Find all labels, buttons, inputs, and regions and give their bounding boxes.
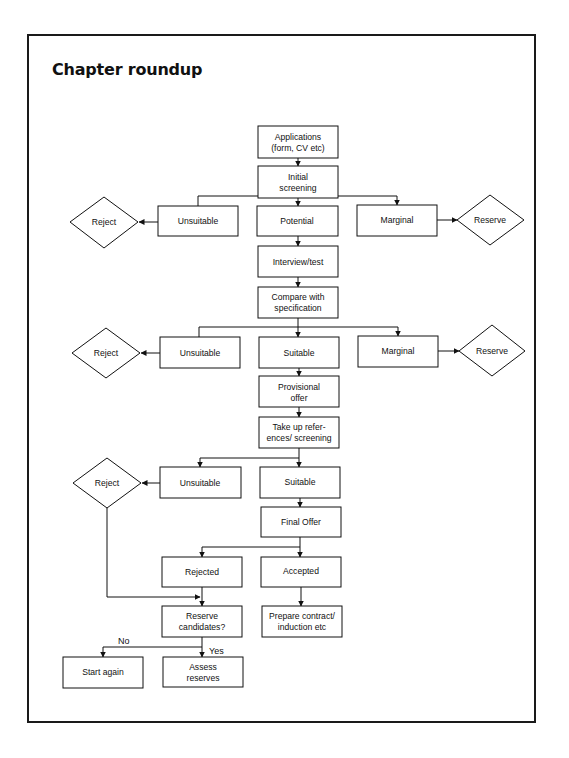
node-shapes bbox=[63, 126, 525, 688]
label-take-up-1: Take up refer- bbox=[272, 422, 325, 432]
label-initial-2: screening bbox=[279, 183, 316, 193]
label-reject-1: Reject bbox=[92, 217, 117, 227]
node-applications bbox=[258, 126, 338, 158]
label-provisional-2: offer bbox=[290, 393, 307, 403]
label-interview: Interview/test bbox=[273, 257, 324, 267]
label-reject-3: Reject bbox=[95, 478, 120, 488]
label-assess-1: Assess bbox=[189, 662, 217, 672]
label-compare-2: specification bbox=[274, 303, 322, 313]
label-potential: Potential bbox=[280, 216, 314, 226]
label-initial-1: Initial bbox=[288, 172, 308, 182]
label-applications-2: (form, CV etc) bbox=[271, 143, 325, 153]
edge-label-yes: Yes bbox=[209, 646, 224, 656]
label-provisional-1: Provisional bbox=[278, 382, 320, 392]
flowchart: Applications (form, CV etc) Initial scre… bbox=[0, 0, 569, 758]
edge-label-no: No bbox=[118, 636, 130, 646]
label-marginal-2: Marginal bbox=[382, 346, 415, 356]
label-suitable-3: Suitable bbox=[284, 477, 315, 487]
label-accepted: Accepted bbox=[283, 566, 319, 576]
label-reserve-2: Reserve bbox=[476, 346, 508, 356]
label-reject-2: Reject bbox=[94, 348, 119, 358]
label-marginal-1: Marginal bbox=[381, 215, 414, 225]
label-take-up-2: ences/ screening bbox=[267, 433, 332, 443]
label-suitable-2: Suitable bbox=[283, 348, 314, 358]
label-prepare-2: induction etc bbox=[278, 622, 327, 632]
node-initial-screening bbox=[258, 166, 338, 198]
label-unsuitable-3: Unsuitable bbox=[180, 478, 221, 488]
label-reserve-candidates-1: Reserve bbox=[186, 611, 218, 621]
label-prepare-1: Prepare contract/ bbox=[269, 611, 336, 621]
label-applications-1: Applications bbox=[275, 132, 321, 142]
label-rejected: Rejected bbox=[185, 567, 219, 577]
label-unsuitable-2: Unsuitable bbox=[180, 348, 221, 358]
label-final-offer: Final Offer bbox=[281, 517, 321, 527]
label-assess-2: reserves bbox=[187, 673, 220, 683]
label-start-again: Start again bbox=[82, 667, 124, 677]
label-compare-1: Compare with bbox=[271, 292, 324, 302]
label-reserve-1: Reserve bbox=[474, 215, 506, 225]
label-unsuitable-1: Unsuitable bbox=[178, 216, 219, 226]
label-reserve-candidates-2: candidates? bbox=[179, 622, 226, 632]
